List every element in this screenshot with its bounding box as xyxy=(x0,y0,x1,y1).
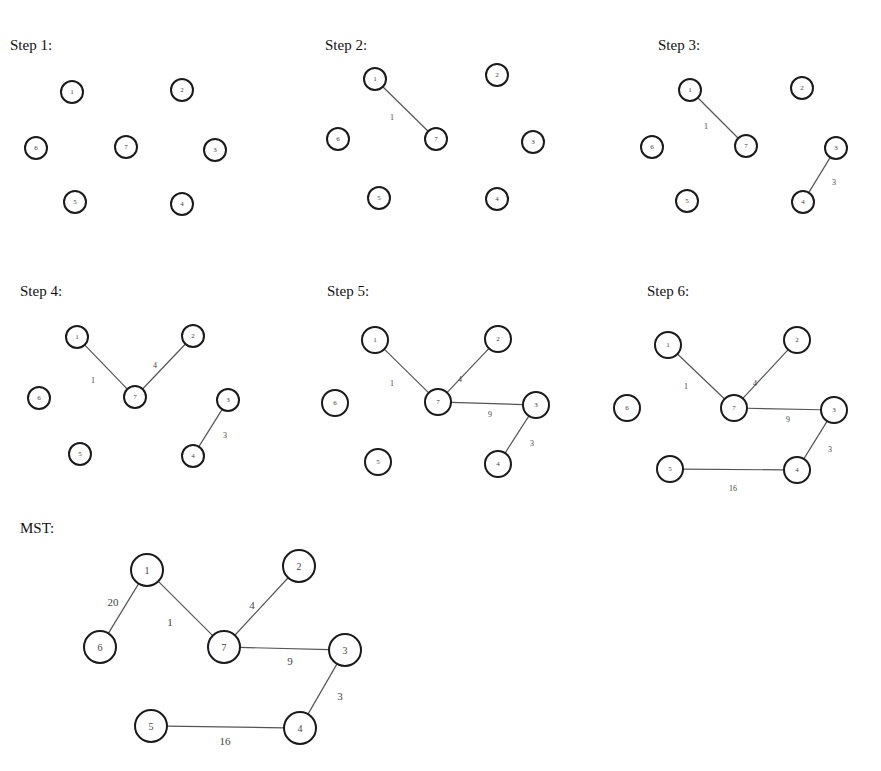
node-label: 3 xyxy=(343,645,348,656)
edge-weight-label: 9 xyxy=(786,415,790,424)
panel-title: Step 4: xyxy=(20,283,62,299)
graph-node-2: 2 xyxy=(283,550,315,582)
node-label: 4 xyxy=(191,452,195,460)
panel-step1: Step 1:1267354 xyxy=(10,37,226,215)
node-label: 1 xyxy=(70,88,74,96)
node-label: 7 xyxy=(732,404,736,412)
graph-node-4: 4 xyxy=(171,193,193,215)
edge-weight-label: 1 xyxy=(684,382,688,391)
graph-node-6: 6 xyxy=(614,395,640,421)
edge-7-2 xyxy=(743,350,788,399)
graph-node-7: 7 xyxy=(425,389,451,415)
graph-node-7: 7 xyxy=(735,135,757,157)
edge-3-4 xyxy=(308,664,337,714)
graph-node-2: 2 xyxy=(784,327,810,353)
graph-node-5: 5 xyxy=(69,443,91,465)
panel-step4: Step 4:1431267354 xyxy=(20,283,239,467)
node-label: 6 xyxy=(336,135,340,143)
graph-node-1: 1 xyxy=(679,79,701,101)
node-label: 2 xyxy=(495,71,499,79)
edge-weight-label: 9 xyxy=(287,655,293,667)
node-label: 6 xyxy=(650,143,654,151)
edge-3-4 xyxy=(199,409,222,446)
node-label: 3 xyxy=(834,144,838,152)
graph-node-3: 3 xyxy=(204,139,226,161)
graph-node-1: 1 xyxy=(131,554,163,586)
edge-weight-label: 1 xyxy=(91,376,95,385)
edge-5-4 xyxy=(167,726,284,728)
node-label: 2 xyxy=(191,332,195,340)
node-label: 4 xyxy=(298,723,303,734)
node-label: 3 xyxy=(226,396,230,404)
edge-1-7 xyxy=(677,354,724,399)
graph-node-1: 1 xyxy=(364,68,386,90)
node-label: 1 xyxy=(688,86,692,94)
node-label: 7 xyxy=(744,142,748,150)
graph-node-6: 6 xyxy=(28,387,50,409)
edge-weight-label: 4 xyxy=(249,599,255,611)
graph-node-6: 6 xyxy=(322,390,348,416)
node-label: 5 xyxy=(668,465,672,473)
edge-weight-label: 20 xyxy=(108,596,120,608)
edge-7-3 xyxy=(240,647,329,649)
node-label: 3 xyxy=(213,146,217,154)
graph-node-1: 1 xyxy=(66,326,88,348)
graph-node-6: 6 xyxy=(641,136,663,158)
graph-node-1: 1 xyxy=(362,327,388,353)
graph-node-2: 2 xyxy=(486,64,508,86)
edge-weight-label: 3 xyxy=(337,690,343,702)
edge-7-3 xyxy=(451,402,523,404)
node-label: 1 xyxy=(666,341,670,349)
panel-title: Step 5: xyxy=(327,283,369,299)
panel-step2: Step 2:11267354 xyxy=(325,37,544,210)
graph-node-2: 2 xyxy=(171,79,193,101)
graph-node-5: 5 xyxy=(676,190,698,212)
node-label: 4 xyxy=(495,195,499,203)
graph-node-3: 3 xyxy=(329,634,361,666)
node-label: 4 xyxy=(801,198,805,206)
node-label: 6 xyxy=(98,642,103,653)
graph-node-6: 6 xyxy=(25,137,47,159)
edge-7-2 xyxy=(447,348,489,392)
graph-node-2: 2 xyxy=(791,77,813,99)
node-label: 7 xyxy=(124,143,128,151)
node-label: 1 xyxy=(75,333,79,341)
node-label: 7 xyxy=(222,642,227,653)
node-label: 2 xyxy=(795,336,799,344)
graph-node-3: 3 xyxy=(522,131,544,153)
node-label: 7 xyxy=(436,398,440,406)
node-label: 3 xyxy=(531,138,535,146)
node-label: 2 xyxy=(800,84,804,92)
graph-node-7: 7 xyxy=(721,395,747,421)
graph-node-2: 2 xyxy=(485,326,511,352)
edge-weight-label: 4 xyxy=(458,375,462,384)
panel-title: Step 3: xyxy=(658,37,700,53)
graph-node-5: 5 xyxy=(368,187,390,209)
graph-node-4: 4 xyxy=(792,191,814,213)
graph-node-3: 3 xyxy=(523,392,549,418)
graph-node-5: 5 xyxy=(657,456,683,482)
edge-weight-label: 1 xyxy=(167,616,173,628)
node-label: 6 xyxy=(333,399,337,407)
edge-weight-label: 16 xyxy=(729,484,737,493)
node-label: 5 xyxy=(376,458,380,466)
panel-step3: Step 3:131267354 xyxy=(641,37,847,213)
node-label: 6 xyxy=(625,404,629,412)
node-label: 5 xyxy=(685,197,689,205)
node-label: 5 xyxy=(149,721,154,732)
node-label: 7 xyxy=(133,393,137,401)
node-label: 4 xyxy=(180,200,184,208)
node-label: 3 xyxy=(534,401,538,409)
node-label: 2 xyxy=(297,561,302,572)
graph-node-2: 2 xyxy=(182,325,204,347)
node-label: 1 xyxy=(145,565,150,576)
edge-3-4 xyxy=(804,421,827,459)
node-label: 5 xyxy=(73,198,77,206)
graph-node-5: 5 xyxy=(64,191,86,213)
edge-weight-label: 16 xyxy=(220,735,232,747)
edge-weight-label: 3 xyxy=(828,445,832,454)
graph-node-4: 4 xyxy=(784,457,810,483)
graph-node-5: 5 xyxy=(135,710,167,742)
graph-node-7: 7 xyxy=(425,128,447,150)
panel-step5: Step 5:14931267354 xyxy=(322,283,549,477)
